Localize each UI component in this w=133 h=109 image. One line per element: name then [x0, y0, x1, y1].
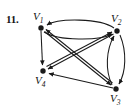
edge-v3-to-v2	[107, 36, 114, 85]
edge-v1-to-v4	[41, 31, 43, 65]
vertex-label-v1-subscript: 1	[40, 16, 44, 25]
vertex-node-v3[interactable]	[113, 86, 118, 91]
vertex-label-v2-letter: V	[111, 12, 118, 24]
edge-v2-to-v1	[47, 20, 114, 28]
edge-v2-to-v3	[119, 35, 125, 84]
vertex-label-v3: V3	[110, 93, 120, 107]
vertex-label-v2-subscript: 2	[118, 18, 122, 27]
vertex-node-v1[interactable]	[38, 25, 43, 30]
vertex-label-v1: V1	[33, 11, 43, 25]
vertex-label-v1-letter: V	[33, 10, 40, 22]
vertex-node-v4[interactable]	[40, 68, 45, 73]
edge-v1-to-v3	[45, 32, 112, 86]
vertex-node-v2[interactable]	[114, 28, 119, 33]
vertex-label-v4: V4	[35, 75, 45, 89]
vertex-label-v3-letter: V	[110, 92, 117, 104]
vertex-label-v4-subscript: 4	[42, 80, 46, 89]
vertex-label-v2: V2	[111, 13, 121, 27]
vertex-label-v4-letter: V	[35, 74, 42, 86]
figure-container: 11.	[0, 0, 133, 109]
vertex-label-v3-subscript: 3	[117, 98, 121, 107]
